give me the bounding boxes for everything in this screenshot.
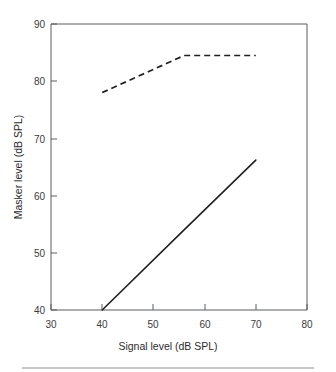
y-tick-label: 60: [34, 191, 46, 202]
x-tick-label: 80: [301, 319, 313, 330]
y-axis-tick-labels: 90 80 70 60 50 40: [34, 19, 46, 316]
x-tick-label: 50: [147, 319, 159, 330]
data-series-group: [102, 56, 256, 311]
series-solid-lower-curve: [102, 160, 256, 310]
x-tick-label: 70: [250, 319, 262, 330]
y-tick-label: 50: [34, 248, 46, 259]
x-tick-label: 60: [199, 319, 211, 330]
x-axis-tick-labels: 30 40 50 60 70 80: [45, 319, 313, 330]
y-axis-ticks: [51, 24, 57, 310]
y-tick-label: 70: [34, 134, 46, 145]
y-tick-label: 90: [34, 19, 46, 30]
x-axis-ticks: [51, 304, 307, 310]
x-tick-label: 30: [45, 319, 57, 330]
y-tick-label: 40: [34, 305, 46, 316]
y-axis-title: Masker level (dB SPL): [12, 115, 24, 219]
figure-container: 90 80 70 60 50 40 30 40 50 60 70 80 Sign…: [0, 0, 336, 372]
y-tick-label: 80: [34, 76, 46, 87]
x-axis-title: Signal level (dB SPL): [118, 340, 217, 352]
series-dashed-upper-curve: [102, 56, 256, 93]
plot-frame: [51, 24, 307, 310]
line-chart: 90 80 70 60 50 40 30 40 50 60 70 80 Sign…: [0, 0, 336, 372]
x-tick-label: 40: [96, 319, 108, 330]
